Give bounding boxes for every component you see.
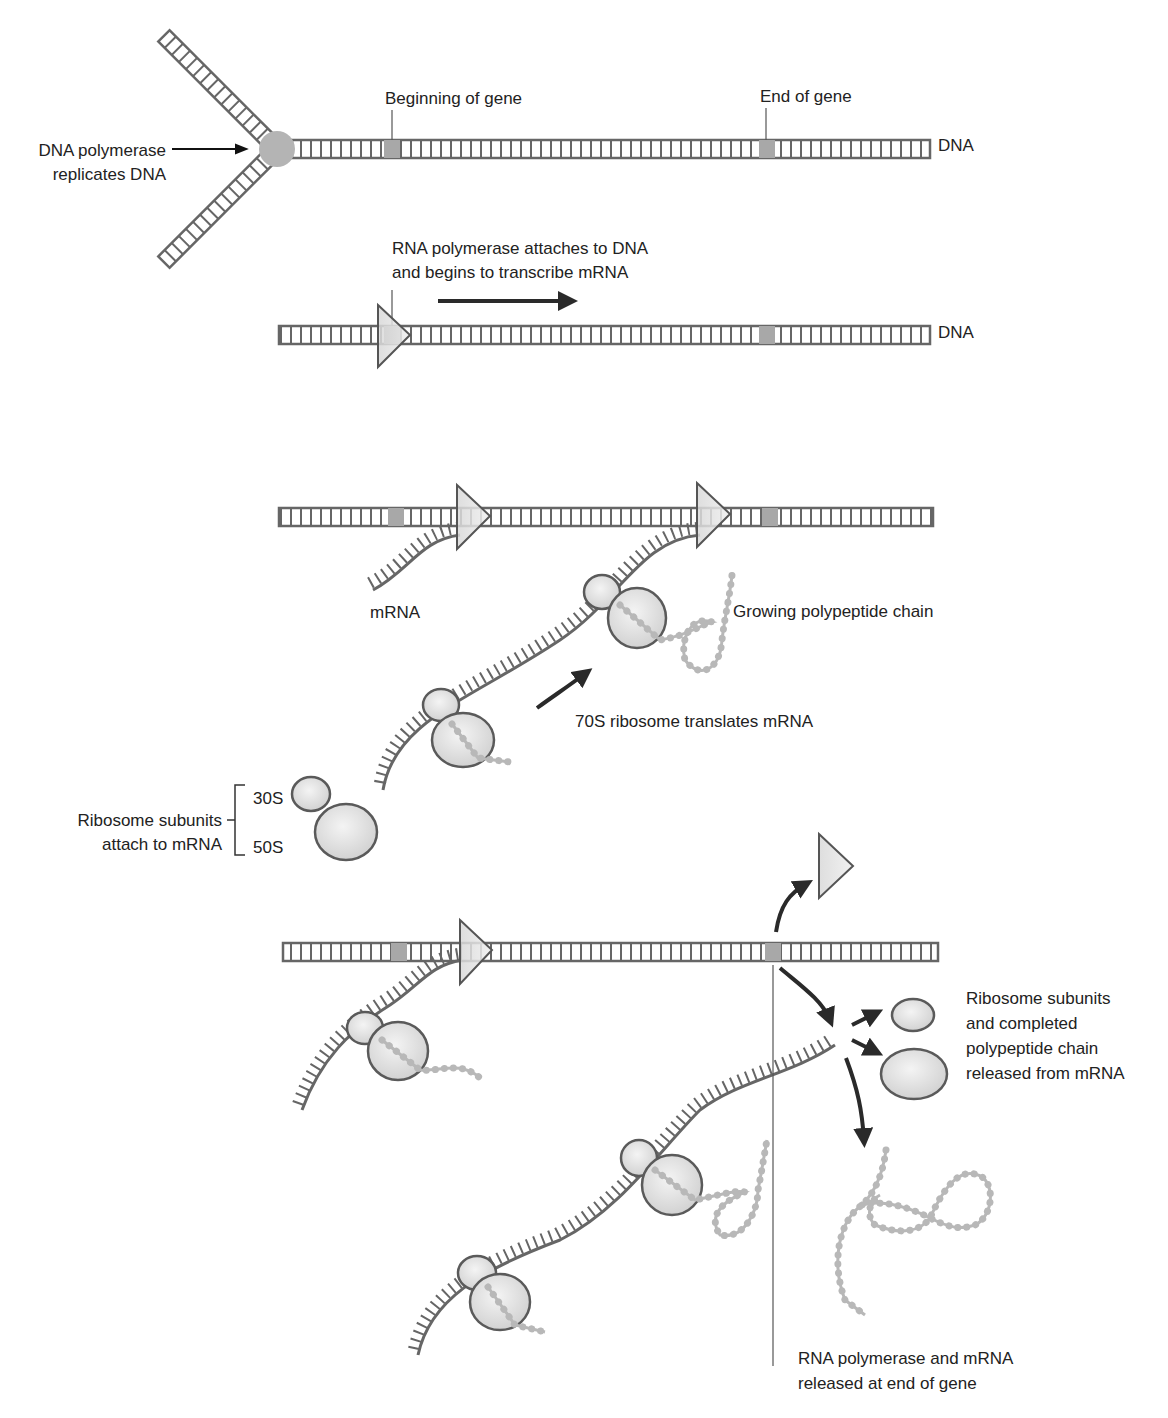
rna-polymerase [378, 305, 410, 367]
subunit-bracket [227, 785, 245, 855]
label-rna-polymerase-2: and begins to transcribe mRNA [392, 263, 629, 282]
gene-end-marker [762, 508, 778, 526]
label-50s: 50S [253, 838, 283, 857]
label-released-3: polypeptide chain [966, 1039, 1098, 1058]
label-subunits-1: Ribosome subunits [77, 811, 222, 830]
label-rna-pol-released-2: released at end of gene [798, 1374, 977, 1393]
label-rna-pol-released-1: RNA polymerase and mRNA [798, 1349, 1014, 1368]
panel-translation: mRNA Growing polypeptide chain 70S ribos… [77, 483, 933, 860]
ribosome-70s-mid [621, 1140, 767, 1236]
mrna-short [373, 535, 460, 590]
gene-start-marker [384, 140, 400, 158]
gene-end-marker [759, 140, 775, 158]
arrow-subunit-large [852, 1040, 876, 1052]
arrow-mrna-release [780, 968, 830, 1020]
rna-polymerase [460, 920, 492, 984]
dna-strand [283, 943, 938, 961]
label-released-1: Ribosome subunits [966, 989, 1111, 1008]
label-released-4: released from mRNA [966, 1064, 1125, 1083]
gene-start-marker [391, 943, 407, 961]
panel-transcription-start: RNA polymerase attaches to DNA and begin… [279, 239, 975, 367]
label-70s-translates: 70S ribosome translates mRNA [575, 712, 814, 731]
gene-end-marker [759, 326, 775, 344]
mrna-long [383, 535, 700, 790]
label-beginning-of-gene: Beginning of gene [385, 89, 522, 108]
panel-replication: DNA polymerase replicates DNA Beginning … [38, 30, 974, 267]
ribosome-subunit-30s [292, 777, 330, 811]
ribosome-70s [347, 1012, 480, 1080]
dna-strand [279, 508, 933, 526]
label-end-of-gene: End of gene [760, 87, 852, 106]
ribosome-70s-lower [423, 689, 510, 767]
label-30s: 30S [253, 789, 283, 808]
ribosome-subunit-50s [315, 804, 377, 860]
panel-termination: Ribosome subunits and completed polypept… [283, 834, 1125, 1393]
dna-fork-arm-upper [158, 30, 275, 147]
label-dna-polymerase-1: DNA polymerase [38, 141, 166, 160]
arrow-subunit-small [852, 1013, 876, 1025]
released-rna-polymerase [819, 834, 853, 898]
rna-polymerase-2 [697, 483, 730, 547]
translation-arrow [537, 673, 586, 708]
dna-polymerase [259, 131, 295, 167]
gene-start-marker [388, 508, 404, 526]
released-subunit-50s [881, 1049, 947, 1099]
arrow-polypeptide-release [846, 1058, 864, 1140]
label-released-2: and completed [966, 1014, 1078, 1033]
label-rna-polymerase-1: RNA polymerase attaches to DNA [392, 239, 649, 258]
label-growing-polypeptide: Growing polypeptide chain [733, 602, 933, 621]
dna-fork-arm-lower [158, 150, 275, 267]
arrow-polymerase-release [776, 884, 806, 932]
label-dna-2: DNA [938, 323, 975, 342]
ribosome-70s-bottom [458, 1256, 545, 1332]
gene-end-marker [765, 943, 781, 961]
label-mrna: mRNA [370, 603, 421, 622]
released-subunit-30s [892, 999, 934, 1031]
label-dna-polymerase-2: replicates DNA [53, 165, 167, 184]
label-subunits-2: attach to mRNA [102, 835, 223, 854]
ribosome-70s-upper [584, 575, 732, 670]
label-dna-1: DNA [938, 136, 975, 155]
dna-strand [279, 326, 930, 344]
rna-polymerase-1 [457, 485, 490, 549]
